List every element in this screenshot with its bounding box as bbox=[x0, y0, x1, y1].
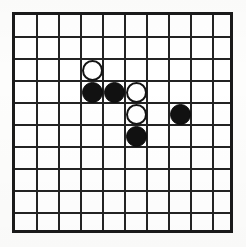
stone-black-col7-row4[interactable] bbox=[170, 104, 191, 125]
board-diagram-screenshot bbox=[0, 0, 246, 247]
stone-white-col5-row4[interactable] bbox=[126, 104, 147, 125]
stones-layer bbox=[15, 15, 230, 230]
stone-white-col5-row3[interactable] bbox=[126, 82, 147, 103]
stone-black-col3-row3[interactable] bbox=[82, 82, 103, 103]
stone-black-col5-row5[interactable] bbox=[126, 126, 147, 147]
stone-black-col4-row3[interactable] bbox=[104, 82, 125, 103]
game-board[interactable] bbox=[12, 12, 233, 233]
stone-white-col3-row2[interactable] bbox=[82, 60, 103, 81]
